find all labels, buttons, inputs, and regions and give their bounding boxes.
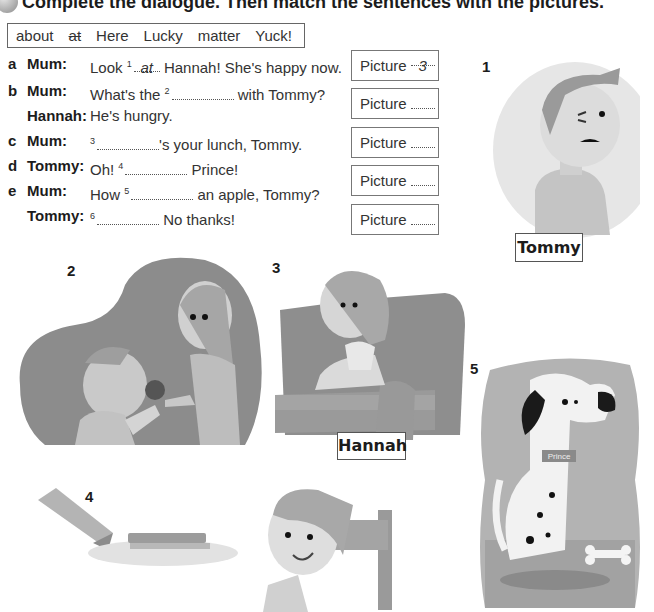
speaker: Hannah: [27,105,87,127]
name-label-hannah: Hannah [337,432,406,460]
picture-4-sandwich-hand-illustration [38,488,238,568]
picture-1-worried-boy-illustration [480,50,640,240]
picture-answer-a[interactable]: 3 [411,51,435,66]
dialogue-line-c: 3's your lunch, Tommy. [90,130,302,152]
name-label-tommy: Tommy [515,233,583,262]
picture-box-a[interactable]: Picture3 [351,50,439,81]
word-bank-item: Yuck! [255,27,292,44]
speaker: Mum: [27,53,67,75]
speaker: Tommy: [27,205,84,227]
row-letter: e [8,180,16,202]
row-letter: d [8,155,17,177]
picture-box-c[interactable]: Picture [351,127,439,158]
picture-answer-c[interactable] [411,133,435,148]
gap-6-input[interactable] [97,210,159,225]
word-bank-item: about [16,27,54,44]
picture-box-e[interactable]: Picture [351,204,439,235]
row-letter: a [8,53,16,75]
gap-2-input[interactable] [172,85,234,100]
word-bank: about at Here Lucky matter Yuck! [7,23,305,48]
dialogue-line-d: Oh! 4 Prince! [90,155,238,177]
picture-3-hannah-armchair-illustration [275,255,470,440]
exercise-heading: Complete the dialogue. Then match the se… [0,0,604,13]
picture-box-d[interactable]: Picture [351,165,439,196]
exercise-number-badge-icon [0,0,18,13]
collar-tag-text: Prince [548,452,571,461]
row-letter: b [8,80,17,102]
gap-1-input[interactable]: at [134,57,160,72]
speaker: Mum: [27,80,67,102]
picture-answer-d[interactable] [411,171,435,186]
gap-3-input[interactable] [97,135,159,150]
word-bank-item: Here [96,27,129,44]
dialogue-line-e-reply: 6 No thanks! [90,205,235,227]
picture-5-dalmatian-illustration: Prince [470,350,650,612]
picture-answer-b[interactable] [411,94,435,109]
dialogue-line-b-reply: He's hungry. [90,105,173,127]
row-letter: c [8,130,16,152]
instruction-text: Complete the dialogue. Then match the se… [22,0,604,13]
speaker: Mum: [27,180,67,202]
word-bank-item-crossed: at [69,27,82,44]
picture-2-mum-apple-illustration [5,255,270,450]
word-bank-item: matter [198,27,241,44]
dialogue-line-a: Look 1at Hannah! She's happy now. [90,53,342,75]
picture-4-hungry-boy-illustration [258,480,418,612]
gap-5-input[interactable] [131,185,193,200]
speaker: Mum: [27,130,67,152]
picture-answer-e[interactable] [411,210,435,225]
dialogue-line-b: What's the 2 with Tommy? [90,80,325,102]
gap-4-input[interactable] [125,160,187,175]
speaker: Tommy: [27,155,84,177]
picture-box-b[interactable]: Picture [351,88,439,119]
dialogue-line-e: How 5 an apple, Tommy? [90,180,320,202]
word-bank-item: Lucky [144,27,183,44]
